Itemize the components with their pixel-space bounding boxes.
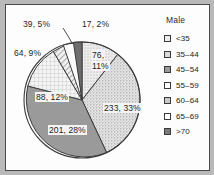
data-label-45-54: 201, 28% xyxy=(48,125,87,135)
legend-label-35-44: 35–44 xyxy=(176,50,199,59)
legend-item-65-69[interactable]: 65–69 xyxy=(164,109,210,125)
data-label-65-69: 39, 5% xyxy=(23,19,50,29)
legend-label-45-54: 45–54 xyxy=(176,65,199,74)
legend-title: Male xyxy=(166,15,210,25)
white-swatch-icon xyxy=(164,113,171,120)
data-label-under35-count: 76, xyxy=(91,50,105,60)
legend-label-over70: >70 xyxy=(176,127,190,136)
pie-chart-svg xyxy=(6,5,156,170)
legend-item-60-64[interactable]: 60–64 xyxy=(164,93,210,109)
data-label-60-64: 64, 9% xyxy=(14,48,41,58)
figure-panel: 39, 5% 17, 2% 64, 9% 76, 11% 88, 12% 233… xyxy=(5,4,210,171)
diagonal-hatch-swatch-icon xyxy=(164,97,171,104)
data-label-under35-percent: 11% xyxy=(91,61,110,71)
legend-label-55-59: 55–59 xyxy=(176,81,199,90)
legend-label-60-64: 60–64 xyxy=(176,96,199,105)
dark-gray-swatch-icon xyxy=(164,128,171,135)
legend-item-45-54[interactable]: 45–54 xyxy=(164,62,210,78)
legend-item-under35[interactable]: <35 xyxy=(164,31,210,47)
legend-item-55-59[interactable]: 55–59 xyxy=(164,78,210,94)
grid-swatch-icon xyxy=(164,82,171,89)
solid-gray-swatch-icon xyxy=(164,66,171,73)
stipple-swatch-icon xyxy=(164,51,171,58)
light-dotted-swatch-icon xyxy=(164,35,171,42)
legend-label-65-69: 65–69 xyxy=(176,112,199,121)
pie-chart: 39, 5% 17, 2% 64, 9% 76, 11% 88, 12% 233… xyxy=(6,5,156,170)
legend-item-over70[interactable]: >70 xyxy=(164,124,210,140)
data-label-55-59: 88, 12% xyxy=(35,92,69,102)
legend-label-under35: <35 xyxy=(176,34,190,43)
legend: Male <35 35–44 45–54 55–59 60–64 xyxy=(156,15,210,165)
data-label-over70: 17, 2% xyxy=(82,19,109,29)
screenshot-frame: 39, 5% 17, 2% 64, 9% 76, 11% 88, 12% 233… xyxy=(0,0,214,175)
legend-item-35-44[interactable]: 35–44 xyxy=(164,47,210,63)
data-label-35-44: 233, 33% xyxy=(103,103,142,113)
